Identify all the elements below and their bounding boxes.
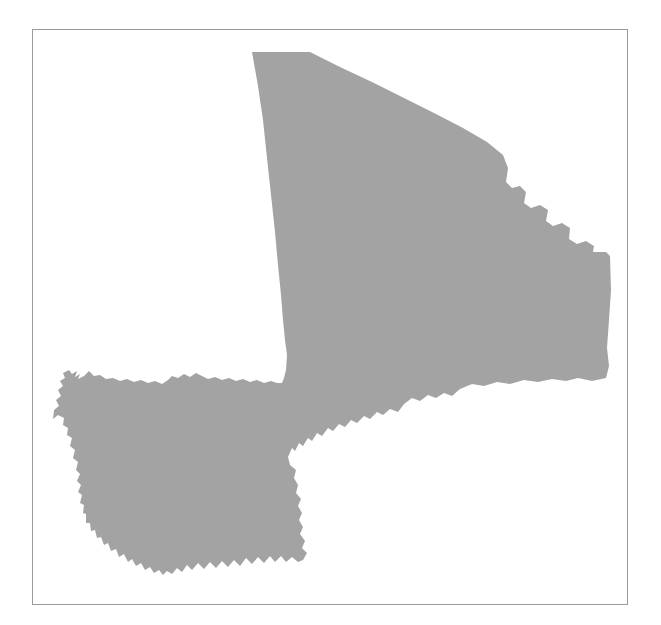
mali-country-shape[interactable] (53, 52, 611, 575)
map-canvas (0, 0, 661, 625)
country-map-svg (0, 0, 661, 625)
